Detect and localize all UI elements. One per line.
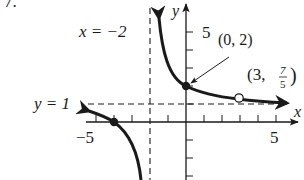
- x-tick-5-label: 5: [270, 128, 279, 147]
- y-axis-label: y: [170, 2, 180, 20]
- vertical-asymptote-label: x = −2: [78, 22, 127, 41]
- hole-label-close: ): [290, 64, 297, 87]
- point-hole: [235, 94, 243, 102]
- graph-canvas: 7. x = −2 y = 1 y x 5 5 −5 (0, 2) (3, 7 …: [0, 0, 304, 180]
- x-axis-label: x: [293, 103, 301, 120]
- hole-label-open: (3,: [247, 65, 265, 84]
- point-x-intercept: [110, 118, 118, 126]
- intercept-point-label: (0, 2): [218, 31, 253, 49]
- hole-label-numerator: 7: [280, 64, 286, 76]
- hole-point-label: (3, 7 5 ): [247, 64, 297, 90]
- problem-number: 7.: [4, 0, 17, 11]
- intercept-leader-arrow: [191, 57, 229, 83]
- y-tick-5-label: 5: [202, 23, 211, 42]
- x-tick-neg5-label: −5: [76, 128, 94, 147]
- horizontal-asymptote-label: y = 1: [32, 94, 70, 113]
- point-y-intercept: [182, 82, 190, 90]
- hole-label-denominator: 5: [280, 78, 286, 90]
